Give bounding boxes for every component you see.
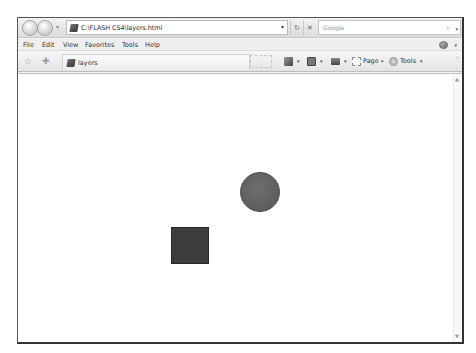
command-toolbar: ☆ ✚ layers ▾ ▾ ▾ Page ▾ Tools ▾ » <box>18 52 462 72</box>
browser-window: ▾ C:\FLASH CS4\layers.html ▾ ↻ ✕ Google … <box>17 17 464 344</box>
page-content: ▲ ▼ <box>18 73 462 342</box>
translate-icon[interactable] <box>439 41 448 49</box>
tab-layers[interactable]: layers <box>62 54 250 70</box>
search-dropdown-icon[interactable]: ▾ <box>455 23 458 36</box>
new-tab-button[interactable] <box>250 55 272 68</box>
menu-edit[interactable]: Edit <box>42 41 55 49</box>
print-icon[interactable] <box>331 58 340 65</box>
search-placeholder: Google <box>323 24 344 31</box>
menu-bar: File Edit View Favorites Tools Help ▾ <box>18 39 462 51</box>
menu-file[interactable]: File <box>23 41 34 49</box>
home-dropdown-icon[interactable]: ▾ <box>297 58 300 64</box>
search-input[interactable]: Google ⌕ ▾ <box>318 20 461 35</box>
feeds-dropdown-icon[interactable]: ▾ <box>320 58 323 64</box>
vertical-scrollbar[interactable]: ▲ ▼ <box>453 74 462 342</box>
tools-menu[interactable]: Tools <box>400 57 416 65</box>
tools-gear-icon[interactable] <box>389 57 398 66</box>
stop-button[interactable]: ✕ <box>303 20 316 35</box>
tools-dropdown-icon[interactable]: ▾ <box>420 58 423 64</box>
menu-tools[interactable]: Tools <box>122 41 138 49</box>
refresh-button[interactable]: ↻ <box>290 20 303 35</box>
home-icon[interactable] <box>284 57 293 66</box>
address-dropdown-icon[interactable]: ▾ <box>281 23 284 30</box>
tab-page-icon <box>66 59 75 67</box>
recent-pages-dropdown[interactable]: ▾ <box>56 23 59 30</box>
menu-help[interactable]: Help <box>145 41 160 49</box>
tab-label: layers <box>78 59 98 67</box>
scroll-down-arrow-icon[interactable]: ▼ <box>455 333 459 339</box>
forward-button[interactable] <box>37 20 53 36</box>
feeds-icon[interactable] <box>307 57 316 66</box>
print-dropdown-icon[interactable]: ▾ <box>344 58 347 64</box>
gray-circle-shape <box>240 172 280 212</box>
toolbar-overflow-chevron-icon[interactable]: » <box>456 54 459 60</box>
address-url[interactable]: C:\FLASH CS4\layers.html <box>81 24 162 32</box>
search-icon[interactable]: ⌕ <box>446 22 450 35</box>
scroll-up-arrow-icon[interactable]: ▲ <box>455 76 459 82</box>
address-bar[interactable]: C:\FLASH CS4\layers.html ▾ <box>66 20 288 35</box>
menu-view[interactable]: View <box>63 41 78 49</box>
page-dropdown-icon[interactable]: ▾ <box>381 58 384 64</box>
stop-icon: ✕ <box>307 24 313 32</box>
refresh-icon: ↻ <box>294 24 300 32</box>
favorites-star-icon[interactable]: ☆ <box>24 56 32 66</box>
page-icon <box>69 24 78 32</box>
dark-square-shape <box>171 227 209 264</box>
page-menu-icon[interactable] <box>352 57 361 66</box>
back-button[interactable] <box>22 20 38 36</box>
add-favorites-icon[interactable]: ✚ <box>42 56 50 66</box>
page-menu[interactable]: Page <box>363 57 379 65</box>
address-bar-row: ▾ C:\FLASH CS4\layers.html ▾ ↻ ✕ Google … <box>18 18 462 38</box>
translate-dropdown-icon[interactable]: ▾ <box>454 42 457 48</box>
menu-favorites[interactable]: Favorites <box>85 41 114 49</box>
